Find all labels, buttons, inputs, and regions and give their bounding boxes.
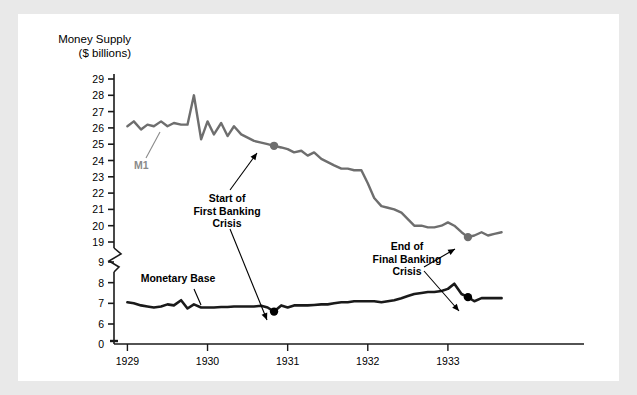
- svg-text:26: 26: [92, 122, 104, 134]
- svg-text:24: 24: [92, 155, 104, 167]
- svg-text:21: 21: [92, 203, 104, 215]
- svg-text:9: 9: [98, 256, 104, 268]
- svg-text:1932: 1932: [356, 355, 380, 367]
- chart-series: [127, 95, 501, 311]
- chart-axes: [108, 74, 584, 351]
- svg-text:20: 20: [92, 220, 104, 232]
- svg-text:29: 29: [92, 73, 104, 85]
- svg-text:1931: 1931: [276, 355, 300, 367]
- svg-text:23: 23: [92, 171, 104, 183]
- svg-text:7: 7: [98, 297, 104, 309]
- svg-text:1933: 1933: [436, 355, 460, 367]
- svg-text:25: 25: [92, 138, 104, 150]
- svg-text:1929: 1929: [116, 355, 140, 367]
- svg-text:8: 8: [98, 277, 104, 289]
- svg-text:22: 22: [92, 187, 104, 199]
- chart-tick-labels: 1920212223242526272829987601929193019311…: [92, 73, 459, 367]
- figure-panel: Money Supply ($ billions) Start of First…: [18, 14, 619, 381]
- line-chart-svg: 1920212223242526272829987601929193019311…: [18, 14, 619, 381]
- svg-text:27: 27: [92, 106, 104, 118]
- svg-text:19: 19: [92, 236, 104, 248]
- chart-annotation-arrows: [146, 132, 459, 320]
- svg-text:6: 6: [98, 318, 104, 330]
- svg-text:0: 0: [98, 338, 104, 350]
- svg-text:28: 28: [92, 89, 104, 101]
- svg-text:1930: 1930: [196, 355, 220, 367]
